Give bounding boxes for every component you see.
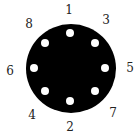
sequence-label: 1 [64,4,74,16]
bolt-hole [41,39,49,47]
bolt-hole [91,39,99,47]
bolt-hole [66,29,74,37]
sequence-label: 6 [5,65,15,77]
sequence-label: 2 [65,121,75,133]
sequence-label: 4 [27,109,37,121]
bolt-hole [66,97,74,105]
bolt-hole [91,87,99,95]
sequence-label: 5 [125,62,135,74]
sequence-label: 8 [24,18,34,30]
sequence-label: 3 [101,14,111,26]
bolt-hole [101,64,109,72]
bolt-hole [41,87,49,95]
sequence-label: 7 [108,107,118,119]
bolt-hole [30,64,38,72]
